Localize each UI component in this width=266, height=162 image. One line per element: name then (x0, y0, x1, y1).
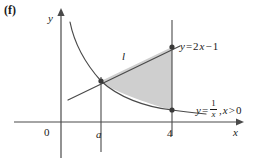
equation-line: y = 2 x − 1 (180, 40, 218, 52)
equation-line-variable: x (200, 40, 205, 52)
equation-line-minus: − (206, 40, 212, 52)
figure-container: (f) y x 0 a 4 l y = 2 x − 1 y = 1 x , x (0, 0, 266, 162)
equation-line-equals: = (186, 40, 192, 52)
graph-canvas (0, 0, 266, 162)
x-tick-label-a: a (96, 128, 102, 140)
y-axis-label: y (48, 12, 53, 24)
equation-line-constant: 1 (213, 40, 219, 52)
fraction-denominator: x (211, 110, 217, 119)
point-line-at-4 (169, 44, 174, 49)
fraction-one-over-x: 1 x (210, 99, 217, 119)
equation-curve-domain-value: 0 (236, 104, 242, 116)
line-l-label: l (122, 50, 125, 62)
equation-line-lhs: y (180, 40, 185, 52)
point-intersection-a (98, 78, 103, 83)
equation-curve-equals: = (202, 104, 208, 116)
x-tick-label-4: 4 (167, 127, 173, 139)
equation-curve-separator: , (219, 104, 222, 116)
point-curve-at-4 (169, 107, 174, 112)
fraction-numerator: 1 (210, 99, 217, 108)
part-label: (f) (4, 3, 16, 17)
x-axis-label: x (233, 126, 238, 138)
equation-curve-domain-variable: x (223, 104, 228, 116)
equation-line-coefficient: 2 (193, 40, 199, 52)
equation-curve-domain-relation: > (229, 104, 235, 116)
equation-curve: y = 1 x , x > 0 (196, 100, 241, 120)
equation-curve-lhs: y (196, 104, 201, 116)
y-axis-arrowhead (57, 8, 64, 16)
origin-label: 0 (44, 126, 50, 138)
